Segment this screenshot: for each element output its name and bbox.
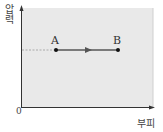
- point-b-label: B: [113, 34, 121, 47]
- x-axis-label: 부피: [137, 115, 155, 130]
- point-b: [116, 48, 120, 52]
- pv-diagram: [0, 0, 163, 132]
- y-axis-label: 압력: [2, 4, 14, 24]
- point-a-label: A: [51, 34, 59, 47]
- point-a: [54, 48, 58, 52]
- plot-area: [21, 8, 153, 107]
- origin-label: 0: [16, 106, 22, 116]
